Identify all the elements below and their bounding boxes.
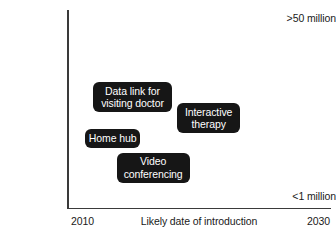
x-axis-labels: 2010 Likely date of introduction 2030 <box>67 214 331 232</box>
chart-item-label-line: Video <box>140 155 166 168</box>
y-axis-title-wrapper: Approximate market size in UK <box>0 0 56 208</box>
plot-area: Data link forvisiting doctorInteractivet… <box>68 10 331 208</box>
chart-item-label-line: Home hub <box>89 132 137 145</box>
chart-item-box: Videoconferencing <box>117 153 190 183</box>
chart-item-box: Home hub <box>85 129 140 148</box>
chart-item-label-line: conferencing <box>124 168 183 181</box>
chart-item-label-line: therapy <box>191 118 225 131</box>
chart-item-label-line: Interactive <box>185 106 232 119</box>
chart-item-label-line: Data link for <box>105 85 160 98</box>
chart-item-box: Data link forvisiting doctor <box>93 82 172 112</box>
chart-item-label-line: visiting doctor <box>101 97 164 110</box>
x-axis-tick-label-right: 2030 <box>307 214 330 228</box>
chart-canvas: Approximate market size in UK >50 millio… <box>0 0 336 245</box>
chart-item-box: Interactivetherapy <box>177 103 240 133</box>
x-axis-title: Likely date of introduction <box>67 214 331 228</box>
